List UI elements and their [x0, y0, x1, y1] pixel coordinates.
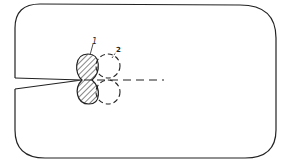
plastic-zone-2 — [96, 54, 120, 104]
specimen-outline — [15, 4, 276, 158]
zone-1-label: 1 — [92, 37, 97, 46]
plastic-zone-1 — [77, 54, 99, 104]
zone-2-label: 2 — [116, 46, 121, 54]
specimen-diagram — [0, 0, 284, 168]
crack — [15, 78, 82, 89]
